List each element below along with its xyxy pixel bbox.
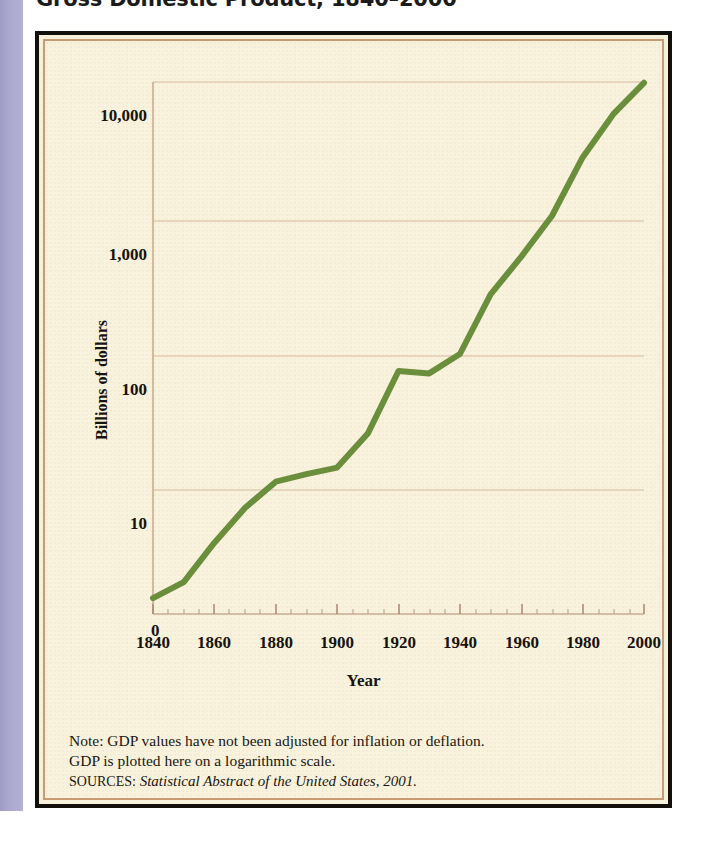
x-tick-label-2000: 2000 bbox=[609, 633, 679, 653]
figure-box: 10,000 1,000 100 10 0 1840 1860 1880 190… bbox=[35, 31, 672, 808]
chart-svg bbox=[45, 41, 674, 810]
x-axis-title: Year bbox=[45, 671, 682, 691]
y-tick-label-1000: 1,000 bbox=[55, 245, 147, 265]
y-tick-label-10000: 10,000 bbox=[55, 106, 147, 126]
gdp-data-line bbox=[153, 83, 644, 598]
note-line-2: GDP is plotted here on a logarithmic sca… bbox=[69, 751, 629, 771]
source-text: Statistical Abstract of the United State… bbox=[140, 773, 417, 789]
page-side-strip bbox=[0, 0, 23, 811]
x-tick-label-1920: 1920 bbox=[364, 633, 434, 653]
figure-title: Gross Domestic Product, 1840–2000 bbox=[36, 0, 676, 9]
x-tick-label-1880: 1880 bbox=[241, 633, 311, 653]
y-tick-label-10: 10 bbox=[55, 514, 147, 534]
x-major-ticks bbox=[153, 604, 644, 614]
chart-plot-area: 10,000 1,000 100 10 0 1840 1860 1880 190… bbox=[45, 41, 682, 818]
source-kicker: SOURCES: bbox=[69, 774, 136, 789]
x-tick-label-1840: 1840 bbox=[118, 633, 188, 653]
y-axis-title: Billions of dollars bbox=[93, 290, 111, 470]
x-tick-label-1940: 1940 bbox=[425, 633, 495, 653]
figure-inner-border: 10,000 1,000 100 10 0 1840 1860 1880 190… bbox=[43, 39, 664, 800]
gridlines bbox=[153, 82, 644, 490]
source-line: SOURCES: Statistical Abstract of the Uni… bbox=[69, 771, 629, 792]
x-tick-label-1980: 1980 bbox=[548, 633, 618, 653]
figure-notes: Note: GDP values have not been adjusted … bbox=[69, 731, 629, 792]
x-tick-label-1960: 1960 bbox=[487, 633, 557, 653]
x-tick-label-1860: 1860 bbox=[179, 633, 249, 653]
x-tick-label-1900: 1900 bbox=[302, 633, 372, 653]
note-line-1: Note: GDP values have not been adjusted … bbox=[69, 731, 629, 751]
